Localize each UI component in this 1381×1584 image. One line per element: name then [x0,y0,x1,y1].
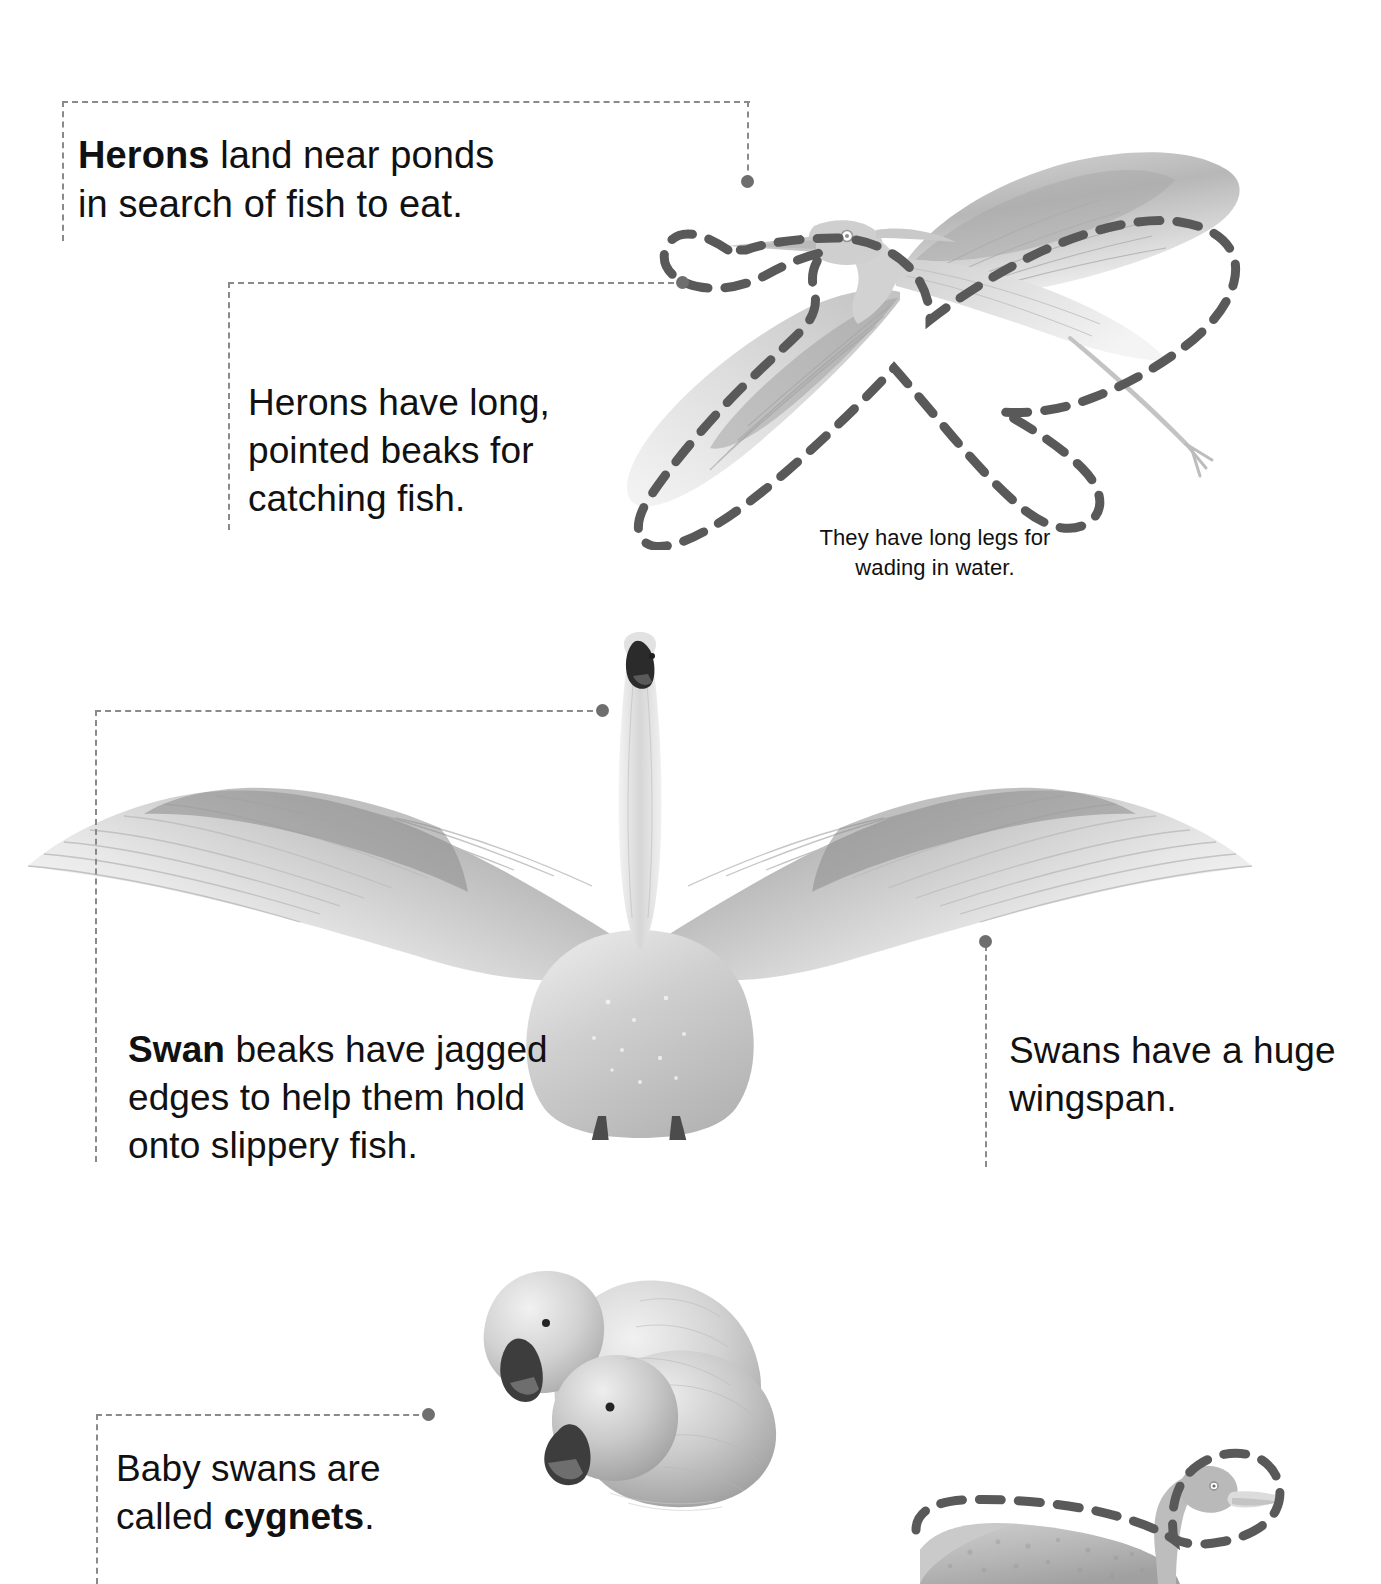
callout-dot-swan-beaks [596,704,609,717]
callout-cygnets-text: Baby swans are called cygnets. [116,1445,516,1541]
callout-swan-wingspan-text: Swans have a huge wingspan. [1009,1027,1369,1123]
callout-cygnets-period: . [364,1496,374,1537]
callout-line-swan-wingspan [985,945,987,1167]
callout-line-heron-ponds-left [62,101,64,241]
callout-line-heron-ponds-top [62,101,750,103]
swan-swimming-illustration [880,1430,1381,1584]
callout-line-cygnets-top [96,1414,429,1416]
callout-dot-swan-wingspan [979,935,992,948]
callout-line-swan-beaks-top [95,710,603,712]
callout-cygnets-keyword: cygnets [224,1496,365,1537]
callout-line-heron-beaks-top [228,282,684,284]
callout-swan-beaks-text: Swan beaks have jagged edges to help the… [128,1026,598,1170]
callout-heron-ponds-text: Herons land near ponds in search of fish… [78,131,718,230]
callout-dot-cygnets [422,1408,435,1421]
callout-line-cygnets-left [96,1414,98,1584]
callout-swan-beaks-keyword: Swan [128,1029,225,1070]
callout-dot-heron-beaks [676,276,689,289]
callout-heron-beaks-text: Herons have long, pointed beaks for catc… [248,379,678,523]
callout-dot-heron-ponds [741,175,754,188]
callout-line-heron-ponds-drop [747,101,749,181]
page-canvas: Herons land near ponds in search of fish… [0,0,1381,1584]
callout-line-heron-beaks-left [228,282,230,530]
callout-heron-ponds-keyword: Herons [78,134,210,176]
caption-heron-legs: They have long legs for wading in water. [800,523,1070,582]
callout-line-swan-beaks-left [95,710,97,1162]
